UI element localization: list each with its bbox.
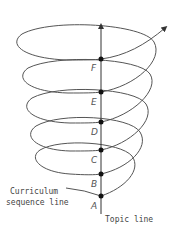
point-c: [99, 148, 104, 153]
point-b: [99, 172, 104, 177]
curriculum-label-line1: Curriculum: [10, 187, 58, 196]
label-c: C: [91, 155, 98, 165]
curriculum-label-line2: sequence line: [6, 198, 69, 207]
topic-line-label: Topic line: [105, 215, 153, 224]
spiral-curriculum-diagram: A B C D E F Curriculum sequence line Top…: [0, 0, 177, 231]
label-a: A: [90, 201, 97, 211]
point-e: [99, 90, 104, 95]
label-b: B: [91, 179, 97, 189]
point-d: [99, 120, 104, 125]
point-f: [99, 57, 104, 62]
point-a: [99, 194, 104, 199]
label-d: D: [91, 127, 98, 137]
label-f: F: [91, 63, 97, 73]
label-e: E: [91, 97, 97, 107]
curriculum-spiral: [17, 25, 165, 196]
